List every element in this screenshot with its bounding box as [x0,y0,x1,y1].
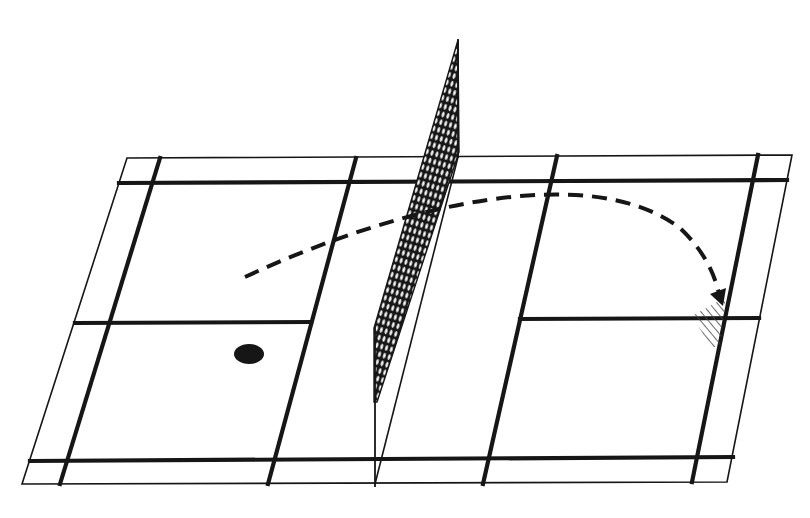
diagram-canvas [0,0,810,518]
badminton-court-diagram [0,0,810,518]
player-position-dot [234,344,264,364]
shuttle-position [234,344,264,364]
left-center-line [75,322,311,323]
far-doubles-service-line [119,180,787,183]
